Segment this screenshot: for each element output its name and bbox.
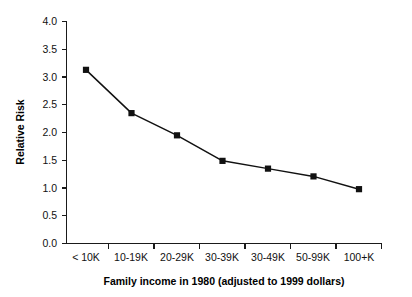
y-tick-label: 1.5 <box>42 154 57 166</box>
y-tick-label: 2.0 <box>42 126 57 138</box>
y-tick-label: 2.5 <box>42 98 57 110</box>
y-tick-label: 0.0 <box>42 237 57 249</box>
data-point-marker <box>83 67 89 73</box>
chart-page: 0.0 0.5 1.0 1.5 2.0 2.5 3.0 3.5 4.0 < 10… <box>0 0 412 297</box>
y-tick-label: 3.5 <box>42 43 57 55</box>
y-axis-tick-labels: 0.0 0.5 1.0 1.5 2.0 2.5 3.0 3.5 4.0 <box>42 15 57 249</box>
data-point-marker <box>128 110 134 116</box>
y-axis-ticks <box>62 22 67 244</box>
x-tick-label: < 10K <box>72 251 100 263</box>
y-tick-label: 0.5 <box>42 209 57 221</box>
y-tick-label: 4.0 <box>42 15 57 27</box>
y-axis-title: Relative Risk <box>14 99 26 165</box>
x-tick-label: 20-29K <box>160 251 194 263</box>
data-point-marker <box>219 158 225 164</box>
data-point-marker <box>265 166 271 172</box>
x-tick-label: 30-39K <box>205 251 239 263</box>
x-axis-title: Family income in 1980 (adjusted to 1999 … <box>104 275 345 287</box>
y-tick-label: 3.0 <box>42 71 57 83</box>
x-tick-label: 10-19K <box>114 251 148 263</box>
x-tick-label: 100+K <box>344 251 375 263</box>
x-tick-label: 30-49K <box>251 251 285 263</box>
data-point-marker <box>356 186 362 192</box>
data-point-marker <box>310 173 316 179</box>
x-axis-ticks <box>109 244 382 249</box>
x-axis-tick-labels: < 10K 10-19K 20-29K 30-39K 30-49K 50-99K… <box>72 251 374 263</box>
data-point-marker <box>174 132 180 138</box>
relative-risk-line-chart: 0.0 0.5 1.0 1.5 2.0 2.5 3.0 3.5 4.0 < 10… <box>0 0 412 297</box>
x-tick-label: 50-99K <box>296 251 330 263</box>
y-tick-label: 1.0 <box>42 182 57 194</box>
plot-area-background <box>66 21 382 243</box>
